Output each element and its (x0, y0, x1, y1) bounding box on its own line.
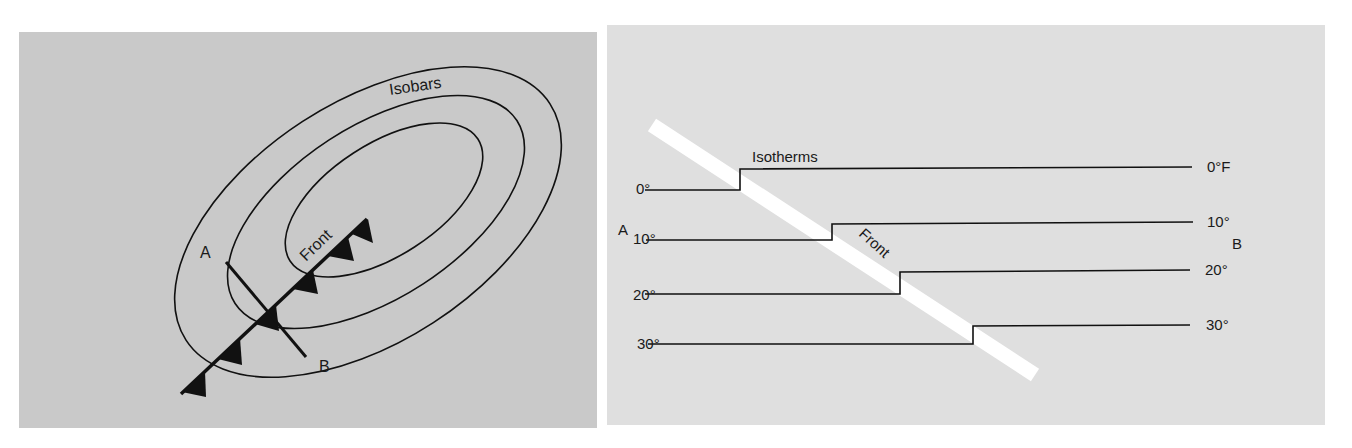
isotherm-30-left-label: 30° (637, 335, 660, 352)
isotherm-20-left-label: 20° (633, 286, 656, 303)
point-a-label-right: A (618, 221, 628, 238)
isotherm-20-right-label: 20° (1205, 261, 1228, 278)
point-b-label-right: B (1232, 235, 1242, 252)
isotherm-10-right-label: 10° (1207, 213, 1230, 230)
isobar-panel: A B Isobars Front (19, 3, 615, 441)
isotherm-0-left-label: 0° (636, 180, 650, 197)
isotherms-label: Isotherms (752, 148, 818, 165)
point-a-label: A (200, 244, 211, 261)
point-b-label: B (319, 358, 330, 375)
figure-canvas: A B Isobars Front 0° 10° 20° 30° 0°F 10°… (0, 0, 1352, 448)
isobar-panel-background (19, 32, 597, 428)
isotherm-panel: 0° 10° 20° 30° 0°F 10° 20° 30° A B Isoth… (607, 25, 1325, 425)
isotherm-0-right-label: 0°F (1207, 158, 1231, 175)
isotherm-30-right-label: 30° (1206, 316, 1229, 333)
isotherm-10-left-label: 10° (633, 230, 656, 247)
